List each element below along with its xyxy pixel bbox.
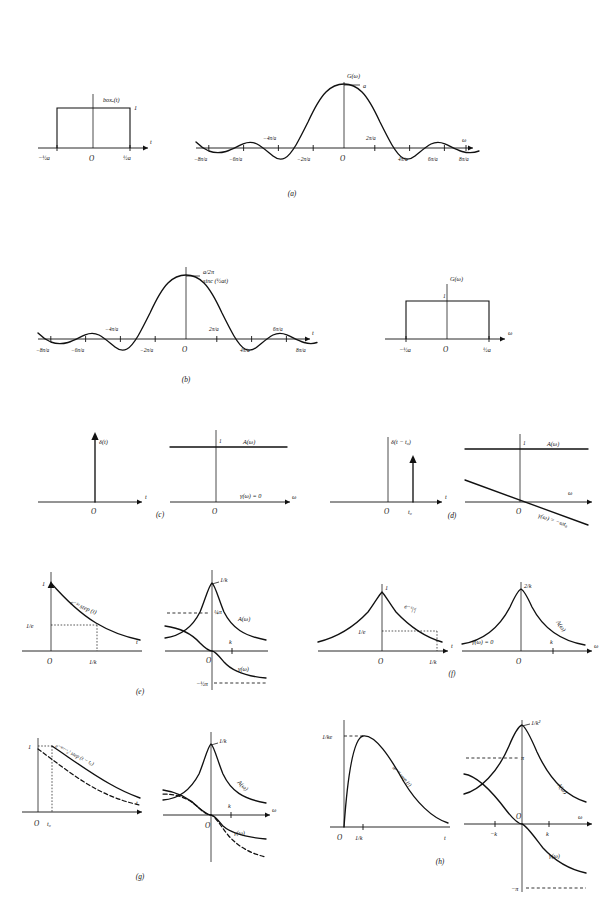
chart-f-right: 2/k γ(ω) = 0 k O ω A(ω) — [462, 582, 599, 666]
k-label: k — [229, 638, 232, 645]
panel-a: −½a O ½a t boxₐ(t) 1 — [0, 30, 611, 205]
peak-label: 1/ke — [322, 733, 333, 740]
panel-caption-f: (f) — [449, 669, 457, 678]
peak-label: 1/k² — [531, 719, 541, 726]
origin-label: O — [337, 834, 343, 842]
origin-label: O — [516, 658, 522, 666]
panel-caption-h: (h) — [436, 857, 445, 866]
panel-cd: δ(t) O t 1 A(ω) γ(ω) = 0 O ω (c) — [0, 412, 611, 537]
function-label-G: G(ω) — [347, 72, 360, 80]
phase-label: γ(ω) = −ωt₀ — [537, 511, 569, 529]
neg-pi-label: −π — [511, 885, 519, 892]
panel-ef: 1 1/e O 1/k t e⁻ᵏᵗ step (t) 1/k ¼π −½π — [0, 552, 611, 700]
phase-label: γ(ω) — [238, 665, 249, 673]
chart-e-left: 1 1/e O 1/k t e⁻ᵏᵗ step (t) — [22, 572, 142, 666]
tick-label-neg8pi: −8π/a — [194, 156, 208, 162]
tick-label-pos2pi: 2π/a — [209, 326, 219, 332]
peak-label: 1/k — [219, 737, 227, 744]
tick-label-pos4pi: 4π/a — [240, 347, 250, 353]
phase-label: γ(ω) = 0 — [240, 492, 262, 500]
axis-label-t: t — [136, 799, 138, 806]
value-label-one: 1 — [28, 743, 31, 750]
box-function-curve — [57, 108, 130, 148]
axis-label-omega: ω — [578, 813, 583, 820]
tick-label-neg6pi: −6π/a — [71, 347, 85, 353]
tick-label-neg-half-a: −½a — [399, 346, 411, 353]
axis-label-omega: ω — [508, 329, 513, 336]
chart-h-right: 1/k² π −π A(ω) γ(ω) −k k O ω — [464, 719, 592, 892]
axis-label-t: t — [136, 638, 138, 645]
panel-caption-b: (b) — [182, 375, 191, 384]
lorentzian-curve — [462, 589, 585, 645]
panel-gh: 1 O t₀ t e⁻ᵏ⁽ᵗ⁻ᵗ₀⁾ step (t − t₀) 1/k A(ω… — [0, 702, 611, 902]
function-label-delta: δ(t) — [99, 438, 108, 446]
chart-c-right: 1 A(ω) γ(ω) = 0 O ω — [170, 430, 297, 516]
k-label: k — [228, 802, 231, 809]
neg-k-label: −k — [490, 830, 497, 837]
amplitude-label: A(ω) — [242, 438, 255, 446]
tick-label-pos8pi: 8π/a — [459, 156, 469, 162]
x-axis-arrow — [285, 500, 290, 505]
tick-label-pos6pi: 6π/a — [428, 156, 438, 162]
function-label-line2: sinc (½at) — [203, 277, 228, 285]
chart-f-left: 1 1/e O 1/k t e⁻ᵏ|ᵗ| — [318, 584, 453, 666]
chart-d-left: δ(t − t₀) O t₀ t — [330, 437, 447, 516]
amplitude-label: A(ω) — [554, 618, 568, 633]
x-axis-arrow — [587, 649, 592, 654]
chart-c-left: δ(t) O t — [38, 432, 147, 516]
panel-caption-d: (d) — [448, 511, 457, 520]
origin-label: O — [206, 657, 212, 665]
x-axis-arrow — [587, 822, 592, 827]
origin-label: O — [212, 508, 218, 516]
impulse-arrow-head — [91, 432, 98, 440]
phase-label: γ(ω) — [234, 829, 245, 837]
peak-label-one: 1 — [385, 584, 388, 591]
origin-label: O — [47, 658, 53, 666]
peak-label-one: 1 — [443, 293, 446, 299]
origin-label: O — [182, 346, 188, 354]
tick-label-neg4pi: −4π/a — [263, 135, 277, 141]
t0-label: t₀ — [47, 820, 51, 827]
amplitude-label: A(ω) — [237, 615, 250, 623]
x-axis-arrow — [437, 500, 442, 505]
axis-label-t: t — [312, 329, 314, 336]
function-label: te⁻ᵏᵗ step (t) — [391, 765, 414, 789]
x-axis-arrow — [137, 500, 142, 505]
impulse-arrow-head — [409, 455, 416, 463]
peak-label: 2/k — [524, 582, 532, 589]
axis-label-t: t — [150, 138, 152, 145]
origin-label: O — [516, 813, 522, 821]
value-label-one-over-k: 1/k — [429, 658, 437, 665]
k-label: k — [546, 830, 549, 837]
chart-a-right: a G(ω) −8π/a −6π/a −4π/a −2π/a O 2π/a 4π… — [194, 72, 479, 163]
chart-d-right: 1 A(ω) γ(ω) = −ωt₀ O ω — [465, 434, 592, 529]
axis-label-omega: ω — [272, 806, 277, 813]
origin-label: O — [205, 822, 211, 830]
x-axis-arrow — [143, 146, 148, 151]
function-label-delta-shift: δ(t − t₀) — [391, 438, 411, 446]
tick-label-neg2pi: −2π/a — [297, 156, 311, 162]
box-spectrum-curve — [406, 301, 489, 339]
tick-label-pos2pi: 2π/a — [366, 135, 376, 141]
function-label: e⁻ᵏᵗ step (t) — [69, 598, 98, 616]
chart-b-right: −½a O ½a ω G(ω) 1 — [385, 275, 513, 354]
phase-line-curve — [465, 480, 588, 525]
t-exponential-curve — [344, 736, 448, 827]
value-label-one-over-k: 1/k — [89, 658, 97, 665]
neg-half-pi-label: −½π — [196, 680, 209, 687]
x-axis-arrow — [265, 813, 270, 818]
quarter-pi-label: ¼π — [214, 608, 223, 615]
origin-label: O — [443, 346, 449, 354]
panel-b: a/2π sinc (½at) −8π/a −6π/a −4π/a −2π/a … — [0, 222, 611, 392]
k-label: k — [550, 638, 553, 645]
x-axis-arrow — [468, 146, 473, 151]
phase-label: γ(ω) = 0 — [472, 638, 494, 646]
tick-label-pos6pi: 6π/a — [273, 326, 283, 332]
value-label-one-over-k: 1/k — [355, 834, 363, 841]
axis-label-t: t — [445, 493, 447, 500]
x-axis-arrow — [587, 500, 592, 505]
tick-label-neg4pi: −4π/a — [105, 326, 119, 332]
tick-label-neg-half-a: −½a — [38, 154, 50, 161]
axis-label-t: t — [444, 834, 446, 841]
phase-curve — [163, 790, 266, 839]
